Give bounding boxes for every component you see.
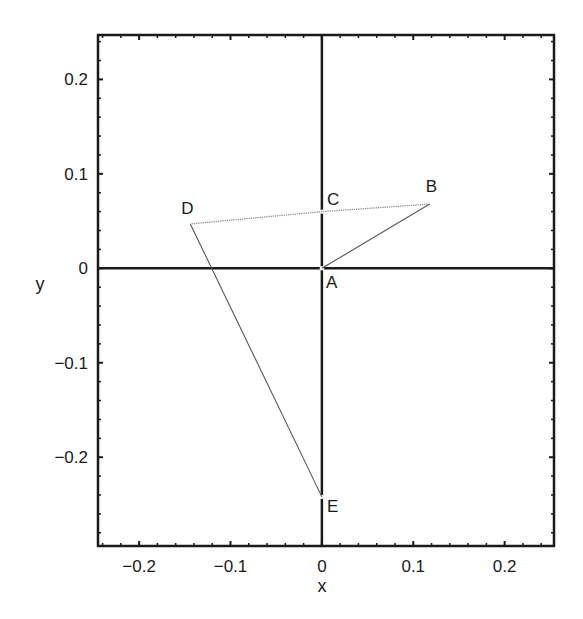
y-tick-label: −0.2 xyxy=(54,448,88,467)
tick-labels: −0.2−0.100.10.20.20.10−0.1−0.2 xyxy=(54,70,516,576)
y-tick-label: 0.1 xyxy=(64,165,88,184)
series-d-e xyxy=(190,224,322,497)
x-tick-label: 0.1 xyxy=(401,557,425,576)
y-axis-label: y xyxy=(36,274,45,294)
x-tick-label: 0 xyxy=(317,557,326,576)
chart-canvas: ABCDE −0.2−0.100.10.20.20.10−0.1−0.2 x y xyxy=(0,0,583,619)
x-tick-label: 0.2 xyxy=(493,557,517,576)
series-b-c-d xyxy=(190,204,429,224)
point-label-d: D xyxy=(181,199,193,218)
y-tick-label: −0.1 xyxy=(54,354,88,373)
point-label-b: B xyxy=(426,177,437,196)
x-axis-label: x xyxy=(317,576,326,596)
x-tick-label: −0.1 xyxy=(214,557,248,576)
point-label-a: A xyxy=(326,273,338,292)
data-series xyxy=(190,204,429,497)
point-labels: ABCDE xyxy=(181,177,437,516)
x-tick-label: −0.2 xyxy=(122,557,156,576)
y-tick-label: 0.2 xyxy=(64,70,88,89)
series-a-b xyxy=(322,204,430,268)
y-tick-label: 0 xyxy=(79,259,88,278)
point-label-e: E xyxy=(327,497,338,516)
point-label-c: C xyxy=(327,190,339,209)
